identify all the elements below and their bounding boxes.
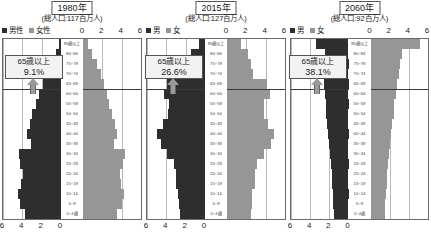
bar-male bbox=[163, 119, 205, 128]
bar-male bbox=[19, 149, 61, 158]
bar-female bbox=[371, 199, 386, 208]
x-tick-label-top: 4 bbox=[262, 26, 266, 36]
age-group-label: 10~14 bbox=[61, 192, 83, 196]
bar-male bbox=[36, 99, 61, 108]
bar-male bbox=[174, 159, 205, 168]
age-group-label: 85歳以上 bbox=[205, 42, 227, 46]
age-group-label: 50~54 bbox=[349, 112, 371, 116]
bar-male bbox=[332, 169, 349, 178]
gridline-vertical bbox=[141, 39, 142, 219]
bar-male bbox=[179, 199, 205, 208]
bar-female bbox=[371, 119, 393, 128]
age-group-label: 60~64 bbox=[205, 92, 227, 96]
panel-subtitle-total-population: (総人口:92百万人) bbox=[331, 14, 388, 23]
x-tick-label-bottom: 6 bbox=[0, 221, 4, 231]
bar-male bbox=[21, 179, 61, 188]
bar-female bbox=[227, 199, 252, 208]
callout-label: 65歳以上 bbox=[148, 57, 200, 67]
age-group-label: 5~9 bbox=[61, 202, 83, 206]
panel-title: 2015年 bbox=[195, 1, 236, 15]
age-group-label: 75~79 bbox=[349, 62, 371, 66]
age-group-label: 20~24 bbox=[349, 172, 371, 176]
bar-female bbox=[227, 169, 255, 178]
x-tick-label-top: 2 bbox=[243, 26, 247, 36]
bar-male bbox=[180, 209, 205, 218]
x-tick-label-top: 6 bbox=[282, 26, 286, 36]
age-group-label: 15~19 bbox=[205, 182, 227, 186]
x-tick-label-bottom: 2 bbox=[326, 221, 330, 231]
bar-female bbox=[83, 179, 121, 188]
bar-male bbox=[32, 109, 61, 118]
age-group-label: 30~34 bbox=[205, 152, 227, 156]
bar-male bbox=[326, 99, 349, 108]
age-group-label: 75~79 bbox=[205, 62, 227, 66]
bar-female bbox=[371, 49, 402, 58]
x-tick-label-bottom: 4 bbox=[307, 221, 311, 231]
elderly-share-callout: 65歳以上26.6% bbox=[145, 55, 203, 79]
age-label-column: 85歳以上80~8475~7970~7465~6960~6455~5950~54… bbox=[205, 39, 227, 219]
bar-female bbox=[227, 39, 241, 48]
age-group-label: 75~79 bbox=[61, 62, 83, 66]
x-tick-label-top: 0 bbox=[224, 26, 228, 36]
elderly-share-callout: 65歳以上38.1% bbox=[289, 55, 347, 79]
bar-male bbox=[316, 39, 348, 48]
age-group-label: 50~54 bbox=[61, 112, 83, 116]
x-axis-top: 0246 bbox=[2, 26, 140, 38]
pyramid-panel: 2060年(総人口:92百万人)男女85歳以上80~8475~7970~7465… bbox=[288, 0, 431, 246]
up-arrow-icon bbox=[26, 78, 40, 94]
bar-female bbox=[227, 49, 248, 58]
age-group-label: 55~59 bbox=[61, 102, 83, 106]
bar-male bbox=[325, 89, 349, 98]
x-tick-label-bottom: 2 bbox=[38, 221, 42, 231]
bar-male bbox=[18, 189, 61, 198]
bar-female bbox=[371, 129, 392, 138]
bar-female bbox=[371, 159, 388, 168]
x-tick-label-bottom: 4 bbox=[163, 221, 167, 231]
x-tick-label-top: 4 bbox=[118, 26, 122, 36]
bar-female bbox=[371, 209, 385, 218]
bar-female bbox=[83, 199, 122, 208]
age-group-label: 45~49 bbox=[205, 122, 227, 126]
age-label-column: 85歳以上80~8475~7970~7465~6960~6455~5950~54… bbox=[349, 39, 371, 219]
callout-value: 9.1% bbox=[8, 67, 60, 77]
age-group-label: 60~64 bbox=[349, 92, 371, 96]
age-group-label: 80~84 bbox=[61, 52, 83, 56]
x-axis-top: 0246 bbox=[290, 26, 427, 38]
age-group-label: 25~29 bbox=[61, 162, 83, 166]
x-axis-top: 0246 bbox=[146, 26, 284, 38]
x-tick-label-top: 6 bbox=[425, 26, 429, 36]
age-group-label: 55~59 bbox=[349, 102, 371, 106]
bar-female bbox=[83, 99, 109, 108]
bar-female bbox=[83, 79, 104, 88]
bar-female bbox=[83, 209, 117, 218]
age-group-label: 70~74 bbox=[349, 72, 371, 76]
bar-male bbox=[331, 159, 348, 168]
population-pyramid-figure: 1980年(総人口:117百万人)男性女性85歳以上80~8475~7970~7… bbox=[0, 0, 431, 246]
age-group-label: 35~39 bbox=[349, 142, 371, 146]
bar-female bbox=[227, 69, 253, 78]
bar-male bbox=[333, 189, 349, 198]
x-tick-label-bottom: 6 bbox=[144, 221, 148, 231]
bar-female bbox=[227, 189, 252, 198]
bar-male bbox=[332, 179, 348, 188]
bar-female bbox=[227, 99, 264, 108]
callout-value: 26.6% bbox=[148, 67, 200, 77]
age-group-label: 10~14 bbox=[205, 192, 227, 196]
bar-female bbox=[227, 59, 251, 68]
bar-female bbox=[227, 209, 251, 218]
x-tick-label-bottom: 4 bbox=[19, 221, 23, 231]
bar-female bbox=[371, 59, 400, 68]
age-group-label: 60~64 bbox=[61, 92, 83, 96]
age-group-label: 70~74 bbox=[205, 72, 227, 76]
age-group-label: 25~29 bbox=[205, 162, 227, 166]
age-group-label: 65~69 bbox=[61, 82, 83, 86]
age-group-label: 5~9 bbox=[349, 202, 371, 206]
bar-female bbox=[83, 189, 124, 198]
bar-female bbox=[371, 89, 396, 98]
bar-female bbox=[83, 69, 101, 78]
bar-female bbox=[227, 79, 267, 88]
gridline-vertical bbox=[428, 39, 429, 219]
bar-male bbox=[167, 149, 205, 158]
bar-male bbox=[327, 119, 348, 128]
x-tick-label-top: 4 bbox=[406, 26, 410, 36]
